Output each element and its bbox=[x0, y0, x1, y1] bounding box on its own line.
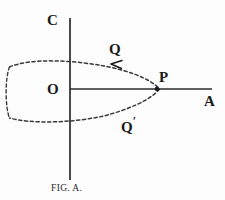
axis-label-a: A bbox=[204, 94, 215, 109]
axis-label-c: C bbox=[47, 13, 58, 28]
dashed-curve-left-closure bbox=[6, 67, 9, 118]
axis-label-origin: O bbox=[47, 82, 59, 97]
figure-container: C A O P Q Q′ FIG. A. bbox=[0, 0, 225, 200]
point-label-q-prime-letter: Q bbox=[121, 119, 133, 135]
figure-drawing bbox=[0, 0, 225, 200]
point-label-p: P bbox=[159, 70, 168, 85]
figure-caption: FIG. A. bbox=[51, 183, 82, 193]
point-label-q: Q bbox=[109, 42, 121, 57]
dashed-curve-lower-arc bbox=[10, 89, 160, 122]
dashed-curve-upper-arc bbox=[10, 61, 160, 89]
point-label-q-prime: Q′ bbox=[121, 116, 136, 135]
prime-mark: ′ bbox=[133, 114, 136, 128]
point-p-marker bbox=[155, 87, 160, 92]
